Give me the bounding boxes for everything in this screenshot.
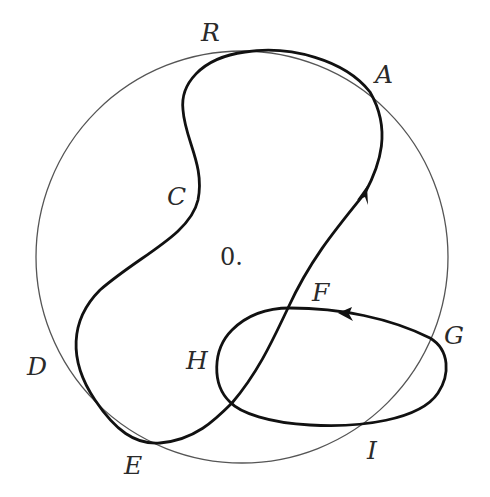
- point-label-F: F: [311, 278, 331, 307]
- diagram-canvas: R A C D E F G H I 0.: [0, 0, 490, 497]
- loop-curve: [217, 308, 446, 426]
- point-label-E: E: [123, 451, 142, 480]
- point-label-C: C: [167, 182, 186, 211]
- point-label-R: R: [200, 18, 220, 47]
- point-label-H: H: [185, 346, 209, 375]
- point-label-D: D: [26, 352, 47, 381]
- point-label-A: A: [373, 60, 393, 89]
- origin-label: 0.: [220, 243, 243, 271]
- point-label-G: G: [444, 321, 464, 350]
- point-label-I: I: [366, 436, 378, 465]
